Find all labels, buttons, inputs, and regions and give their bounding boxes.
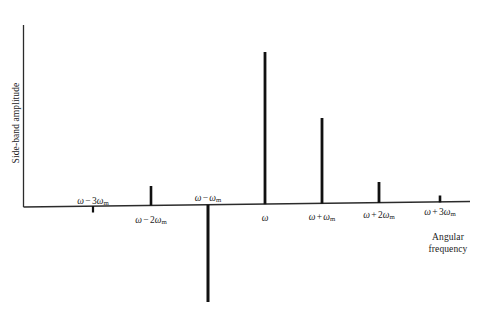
x-tick-label: ω−3ωm bbox=[77, 196, 108, 206]
axis-lines bbox=[24, 25, 471, 207]
spectral-line bbox=[321, 118, 324, 204]
x-tick-label: ω+2ωm bbox=[363, 210, 394, 220]
y-axis-label: Side-band amplitude bbox=[11, 63, 21, 183]
spectral-line bbox=[92, 206, 94, 213]
spectral-lines-group bbox=[92, 52, 441, 302]
spectral-line bbox=[378, 182, 381, 203]
x-tick-label: ω+ωm bbox=[309, 212, 336, 222]
x-axis-label-line-1: Angular bbox=[415, 232, 481, 244]
x-axis-label: Angular frequency bbox=[415, 232, 481, 255]
spectral-line bbox=[207, 205, 210, 302]
x-tick-label: ω−2ωm bbox=[135, 215, 166, 225]
sideband-spectrum-figure: Side-band amplitude Angular frequency ω−… bbox=[0, 0, 481, 319]
spectral-line bbox=[150, 186, 153, 205]
spectral-line bbox=[264, 52, 267, 204]
x-tick-label: ω+3ωm bbox=[424, 207, 455, 217]
spectral-line bbox=[439, 196, 442, 203]
x-tick-label: ω bbox=[262, 213, 269, 223]
x-tick-label: ω−ωm bbox=[195, 193, 222, 203]
x-axis-label-line-2: frequency bbox=[415, 244, 481, 256]
plot-canvas bbox=[0, 0, 481, 319]
